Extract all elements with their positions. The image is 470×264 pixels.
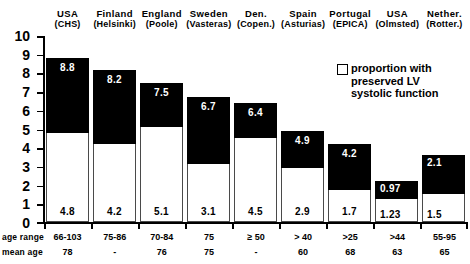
bar-value-label: 2.1 (427, 157, 442, 168)
city-label: (Olmsted) (375, 19, 419, 30)
legend-label: proportion withpreserved LVsystolic func… (351, 62, 438, 100)
country-label: USA (57, 8, 78, 19)
table-cell: >25 (327, 230, 374, 245)
x-axis-tick (185, 223, 187, 229)
bar-value-label: 6.4 (235, 107, 276, 118)
city-label: (Asturias) (281, 19, 325, 30)
table-cell: 63 (374, 245, 421, 260)
category-header: Nether. (Rotter.) (421, 8, 468, 34)
bar-segment-dark[interactable]: 2.1 (422, 155, 465, 194)
age-range-cells: 66-103 75-86 70-84 75 ≥ 50 > 40 >25 >44 … (44, 230, 468, 245)
bar-value-label: 4.5 (235, 206, 276, 217)
category-headers: USA (CHS) Finland (Helsinki) England (Po… (44, 8, 468, 34)
bar-segment-dark[interactable]: 8.8 (46, 58, 89, 132)
bar-value-label: 8.8 (47, 62, 88, 73)
y-tick-label: 2 (0, 179, 30, 193)
y-tick-label: 3 (0, 160, 30, 174)
bottom-data-table: age range 66-103 75-86 70-84 75 ≥ 50 > 4… (0, 230, 470, 260)
category-header: Finland (Helsinki) (91, 8, 138, 34)
bar-value-label: 6.7 (188, 101, 229, 112)
category-header: England (Poole) (138, 8, 185, 34)
bar-value-label: 1.5 (427, 209, 442, 220)
category-header: USA (Olmsted) (374, 8, 421, 34)
bar-stack[interactable]: 4.9 2.9 (281, 131, 324, 222)
bar-segment-dark[interactable]: 0.97 (375, 181, 418, 199)
bar-value-label: 0.97 (380, 183, 401, 194)
table-cell: ≥ 50 (232, 230, 279, 245)
bar-segment-dark[interactable]: 4.2 (328, 144, 371, 191)
x-axis-tick (466, 223, 468, 229)
country-label: Nether. (427, 8, 462, 19)
country-label: USA (387, 8, 408, 19)
bar-value-label: 1.23 (380, 209, 401, 220)
bar-segment-light[interactable]: 4.5 (234, 138, 277, 222)
bar-stack[interactable]: 0.97 1.23 (375, 181, 418, 222)
bar-stack[interactable]: 6.7 3.1 (187, 97, 230, 222)
table-cell: 55-95 (421, 230, 468, 245)
bar-stack[interactable]: 8.8 4.8 (46, 58, 89, 222)
x-axis-tick (420, 223, 422, 229)
city-label: (Helsinki) (93, 19, 136, 30)
bar-stack[interactable]: 2.1 1.5 (422, 155, 465, 222)
category-header: Spain (Asturias) (280, 8, 327, 34)
city-label: (Poole) (146, 19, 178, 30)
table-cell: 75 (185, 230, 232, 245)
y-tick-label: 9 (0, 48, 30, 62)
city-label: (EPICA) (333, 19, 368, 30)
legend: proportion withpreserved LVsystolic func… (337, 62, 469, 100)
table-cell: 75 (185, 245, 232, 260)
bar-value-label: 5.1 (141, 206, 182, 217)
country-label: Finland (96, 8, 133, 19)
bar-segment-dark[interactable]: 6.4 (234, 103, 277, 138)
mean-age-cells: 78 - 76 75 - 60 68 63 65 (44, 245, 468, 260)
bar-segment-light[interactable]: 5.1 (140, 127, 183, 222)
category-header: Den. (Copen.) (232, 8, 279, 34)
y-axis-labels: 10 9 8 7 6 5 4 3 2 1 0 (0, 29, 30, 229)
bar-value-label: 2.9 (282, 206, 323, 217)
age-range-row-title: age range (2, 230, 44, 245)
legend-line-1: proportion with (351, 62, 432, 74)
legend-swatch-icon (337, 64, 348, 75)
city-label: (Vasteras) (186, 19, 231, 30)
bar-value-label: 4.2 (94, 206, 135, 217)
country-label: Den. (245, 8, 267, 19)
table-cell: 66-103 (44, 230, 91, 245)
table-cell: >44 (374, 230, 421, 245)
table-cell: 68 (327, 245, 374, 260)
bar-value-label: 1.7 (329, 206, 370, 217)
bar-segment-light[interactable]: 4.8 (46, 133, 89, 222)
bar-segment-light[interactable]: 3.1 (187, 164, 230, 222)
bar-segment-light[interactable]: 2.9 (281, 168, 324, 222)
mean-age-row: mean age 78 - 76 75 - 60 68 63 65 (0, 245, 470, 260)
bar-segment-light[interactable]: 1.23 (375, 199, 418, 222)
x-axis-tick (44, 223, 46, 229)
table-cell: 78 (44, 245, 91, 260)
bar-stack[interactable]: 6.4 4.5 (234, 103, 277, 222)
country-label: Portugal (329, 8, 371, 19)
bar-stack[interactable]: 8.2 4.2 (93, 70, 136, 223)
y-tick-label: 7 (0, 85, 30, 99)
bar-value-label: 8.2 (94, 74, 135, 85)
country-label: England (142, 8, 182, 19)
chart-root: USA (CHS) Finland (Helsinki) England (Po… (0, 0, 470, 264)
bar-stack[interactable]: 7.5 5.1 (140, 83, 183, 223)
bar-value-label: 4.2 (329, 148, 370, 159)
bar-segment-light[interactable]: 4.2 (93, 144, 136, 222)
bar-segment-dark[interactable]: 7.5 (140, 83, 183, 128)
bar-segment-dark[interactable]: 8.2 (93, 70, 136, 144)
bar-segment-dark[interactable]: 4.9 (281, 131, 324, 168)
bar-stack[interactable]: 4.2 1.7 (328, 144, 371, 222)
table-cell: 76 (138, 245, 185, 260)
x-axis-tick (279, 223, 281, 229)
bar-segment-light[interactable]: 1.5 (422, 194, 465, 222)
mean-age-row-title: mean age (2, 245, 44, 260)
y-tick-label: 1 (0, 197, 30, 211)
y-tick-label: 5 (0, 123, 30, 137)
x-axis-tick (373, 223, 375, 229)
city-label: (CHS) (55, 19, 81, 30)
y-tick-label: 6 (0, 104, 30, 118)
table-cell: 65 (421, 245, 468, 260)
bar-segment-dark[interactable]: 6.7 (187, 97, 230, 164)
bar-segment-light[interactable]: 1.7 (328, 190, 371, 222)
table-cell: 75-86 (91, 230, 138, 245)
